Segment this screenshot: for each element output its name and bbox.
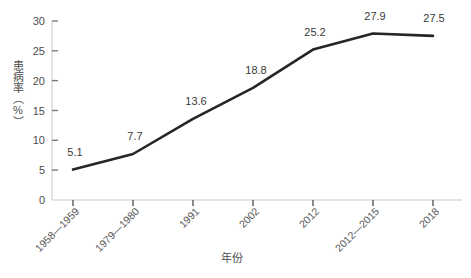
- x-tick-label-6: 2018: [416, 205, 441, 230]
- y-tick-label-30: 30: [33, 15, 45, 27]
- y-tick-label-25: 25: [33, 45, 45, 57]
- data-label-6: 27.5: [423, 12, 444, 24]
- y-tick-label-5: 5: [39, 164, 45, 176]
- x-axis-title: 年份: [221, 251, 243, 264]
- prevalence-line-series: [73, 34, 433, 170]
- data-label-1: 7.7: [127, 130, 142, 142]
- data-label-3: 18.8: [245, 64, 266, 76]
- x-tick-label-2: 1991: [176, 205, 201, 230]
- line-chart-plot: 30 25 20 15 10 5 0 1958—1959 1979—1980 1…: [0, 0, 471, 278]
- x-tick-label-3: 2002: [236, 205, 261, 230]
- y-tick-label-20: 20: [33, 75, 45, 87]
- chart-container: 患病率（%） 30 25 20 15 10 5 0: [0, 0, 471, 278]
- data-label-4: 25.2: [304, 26, 325, 38]
- y-tick-label-15: 15: [33, 105, 45, 117]
- x-tick-label-1: 1979—1980: [92, 205, 141, 254]
- y-axis-ticks: [52, 21, 58, 170]
- data-label-2: 13.6: [185, 95, 206, 107]
- data-label-5: 27.9: [364, 10, 385, 22]
- x-tick-label-0: 1958—1959: [32, 205, 81, 254]
- x-tick-label-5: 2012—2015: [332, 205, 381, 254]
- data-label-0: 5.1: [67, 146, 82, 158]
- y-tick-label-10: 10: [33, 134, 45, 146]
- y-tick-label-0: 0: [39, 194, 45, 206]
- x-tick-label-4: 2012: [296, 205, 321, 230]
